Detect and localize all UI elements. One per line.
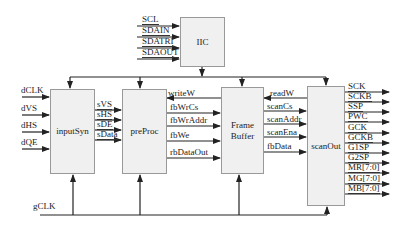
signal-label: fbData: [267, 142, 292, 151]
signal-label: dHS: [21, 121, 37, 130]
inputsyn-block: inputSyn: [50, 89, 95, 174]
signal-label: MR[7:0]: [348, 163, 380, 173]
signal-label: MB[7:0]: [348, 184, 380, 194]
signal-label: dVS: [21, 104, 37, 113]
signal-label: fbWe: [170, 131, 189, 140]
iic-label: IIC: [197, 37, 209, 48]
signal-label: SDAOUT: [142, 48, 179, 58]
preproc-label: preProc: [131, 126, 159, 137]
inputsyn-label: inputSyn: [56, 126, 89, 137]
iic-block: IIC: [180, 17, 225, 67]
signal-label: SCL: [142, 15, 159, 25]
signal-label: SDATRI: [142, 37, 174, 47]
scanout-label: scanOut: [311, 141, 341, 152]
signal-label: dQE: [21, 138, 38, 147]
signal-label: dCLK: [21, 86, 44, 95]
scanout-block: scanOut: [307, 86, 345, 206]
framebuffer-label: Frame Buffer: [231, 120, 254, 142]
framebuffer-block: Frame Buffer: [221, 87, 264, 174]
preproc-block: preProc: [122, 89, 167, 174]
clock-label: gCLK: [33, 202, 56, 211]
signal-label: scanAddr: [267, 115, 302, 124]
signal-label: readW: [270, 89, 294, 98]
signal-label: rbDataOut: [170, 148, 208, 157]
signal-label: scanCs: [267, 102, 293, 111]
signal-label: PWC: [348, 112, 368, 122]
signal-label: SDAIN: [142, 26, 170, 36]
signal-label: fbWrCs: [170, 103, 198, 112]
signal-label: writeW: [168, 89, 195, 98]
signal-label: fbWrAddr: [170, 116, 207, 125]
signal-label: scanEna: [267, 128, 297, 137]
signal-label: sData: [97, 130, 118, 140]
